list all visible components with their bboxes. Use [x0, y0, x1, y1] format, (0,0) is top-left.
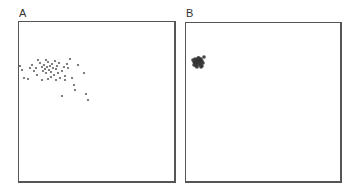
data-point [64, 79, 66, 81]
data-point [83, 72, 85, 74]
data-point [61, 70, 63, 72]
data-point [37, 59, 39, 61]
scatter-panel-a [18, 21, 176, 183]
data-point [19, 65, 21, 67]
scatter-plot-a [19, 22, 177, 184]
data-point [29, 67, 31, 69]
data-point [43, 64, 45, 66]
data-point [23, 77, 25, 79]
data-point [36, 74, 38, 76]
data-point [50, 76, 52, 78]
data-point [192, 63, 196, 67]
data-point [52, 67, 54, 69]
data-point [58, 62, 60, 64]
data-point [54, 60, 56, 62]
data-point [64, 75, 66, 77]
data-point [87, 99, 89, 101]
data-point [41, 79, 43, 81]
data-point [31, 64, 33, 66]
data-point [47, 78, 49, 80]
data-point [33, 70, 35, 72]
panel-b-label: B [186, 8, 193, 19]
data-point [57, 72, 59, 74]
data-point [44, 68, 46, 70]
data-point [197, 56, 201, 60]
data-point [53, 74, 55, 76]
data-point [45, 59, 47, 61]
data-point [69, 58, 71, 60]
data-point [55, 68, 57, 70]
data-point [67, 67, 69, 69]
data-point [50, 71, 52, 73]
data-point [199, 65, 203, 69]
data-point [49, 65, 51, 67]
data-point [48, 69, 50, 71]
data-point [42, 70, 44, 72]
data-point [77, 64, 79, 66]
scatter-plot-b [186, 23, 343, 184]
data-point [71, 77, 73, 79]
data-point [21, 69, 23, 71]
data-point [39, 62, 41, 64]
data-point [56, 65, 58, 67]
data-point [59, 77, 61, 79]
data-point [66, 63, 68, 65]
data-point [46, 66, 48, 68]
data-point [41, 66, 43, 68]
panel-a-label: A [19, 8, 26, 19]
data-point [61, 95, 63, 97]
data-point [73, 84, 75, 86]
data-point [27, 78, 29, 80]
data-point [35, 67, 37, 69]
data-point [55, 79, 57, 81]
data-point [51, 63, 53, 65]
data-point [63, 66, 65, 68]
data-point [202, 55, 206, 59]
data-point [45, 72, 47, 74]
data-point [195, 65, 199, 69]
data-point [47, 61, 49, 63]
scatter-panel-b [185, 22, 342, 183]
data-point [85, 93, 87, 95]
data-point [74, 89, 76, 91]
